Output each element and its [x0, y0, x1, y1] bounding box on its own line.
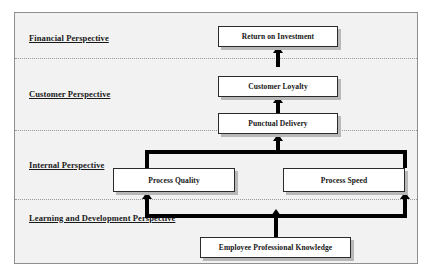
connector-head-to-speed [400, 192, 410, 199]
node-process-speed[interactable]: Process Speed [283, 168, 405, 192]
band-label-internal: Internal Perspective [29, 160, 104, 170]
bracket-leg-speed-up [403, 150, 407, 168]
connector-head-loyalty-to-roi [273, 46, 283, 53]
connector-shaft-knowledge-to-bracket [274, 214, 278, 238]
connector-head-delivery-to-loyalty [273, 96, 283, 103]
node-employee-professional-knowledge[interactable]: Employee Professional Knowledge [200, 237, 351, 258]
node-punctual-delivery[interactable]: Punctual Delivery [218, 113, 338, 134]
diagram-canvas: Financial Perspective Customer Perspecti… [0, 0, 432, 279]
bracket-leg-to-quality [145, 197, 149, 216]
band-divider-customer-internal [15, 130, 417, 131]
bracket-leg-quality-up [145, 150, 149, 168]
node-return-on-investment[interactable]: Return on Investment [218, 26, 338, 47]
band-label-financial: Financial Perspective [29, 33, 109, 43]
connector-head-to-quality [142, 192, 152, 199]
node-process-quality[interactable]: Process Quality [113, 168, 235, 192]
band-label-customer: Customer Perspective [29, 89, 110, 99]
band-divider-internal-learning [15, 199, 417, 200]
connector-shaft-loyalty-to-roi [276, 51, 280, 67]
band-divider-financial-customer [15, 58, 417, 59]
connector-head-knowledge-up [271, 209, 281, 216]
connector-head-internal-to-delivery [273, 134, 283, 141]
bracket-bar-internal-to-delivery [145, 150, 407, 154]
node-customer-loyalty[interactable]: Customer Loyalty [218, 76, 338, 97]
diagram-frame: Financial Perspective Customer Perspecti… [14, 12, 418, 264]
bracket-leg-to-speed [403, 197, 407, 216]
